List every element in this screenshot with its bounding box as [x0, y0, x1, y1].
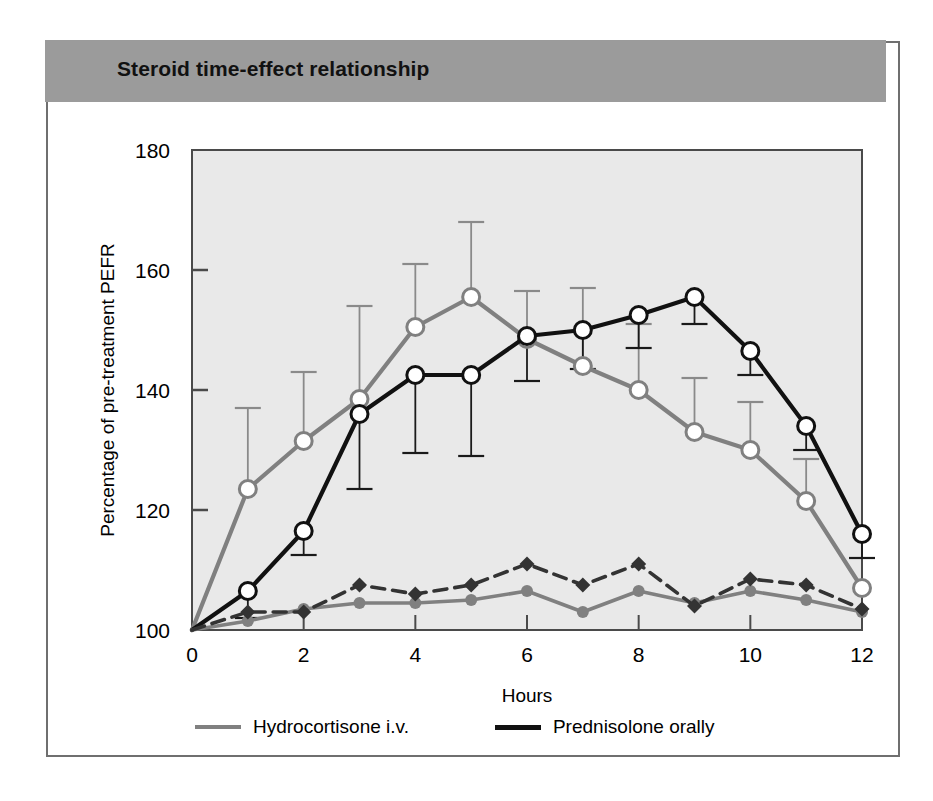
page-title: Steroid time-effect relationship — [117, 57, 429, 81]
legend-item-prednisolone[interactable]: Prednisolone orally — [495, 716, 715, 738]
legend-line-swatch-gray — [195, 725, 241, 729]
legend-line-swatch-black — [495, 725, 541, 730]
legend-label-hydrocortisone: Hydrocortisone i.v. — [253, 716, 409, 738]
legend-label-prednisolone: Prednisolone orally — [553, 716, 715, 738]
figure-container: Steroid time-effect relationship 1001201… — [0, 0, 933, 801]
figure-frame — [46, 41, 900, 757]
legend-item-hydrocortisone[interactable]: Hydrocortisone i.v. — [195, 716, 409, 738]
chart-legend: Hydrocortisone i.v. Prednisolone orally — [195, 712, 855, 742]
title-bar: Steroid time-effect relationship — [45, 40, 886, 102]
